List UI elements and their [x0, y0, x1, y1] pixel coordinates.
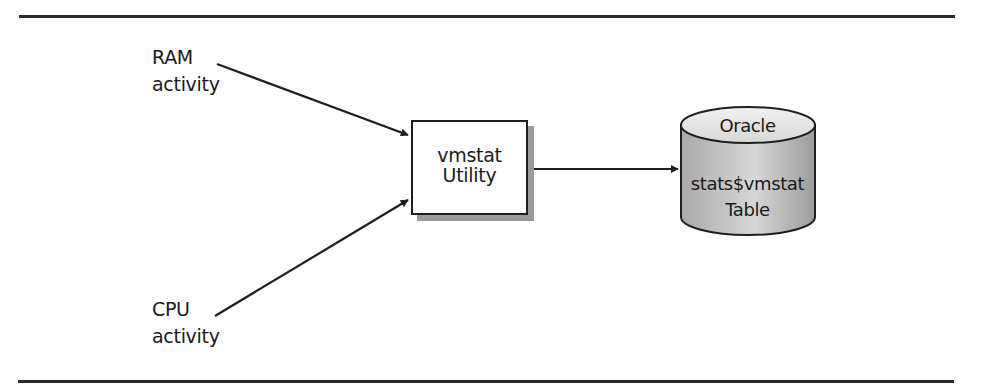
ram-label-line-1: RAM: [152, 44, 220, 71]
arrow-ram-to-vmstat: [217, 64, 408, 135]
ram-label-line-2: activity: [152, 71, 220, 98]
arrow-cpu-to-vmstat: [215, 200, 408, 316]
arrow-line: [215, 200, 408, 316]
cylinder-label-line-2: Table: [680, 197, 815, 223]
cpu-label-line-2: activity: [152, 323, 220, 350]
oracle-cylinder-label: stats$vmstat Table: [680, 171, 815, 223]
bottom-rule: [18, 380, 954, 383]
cpu-activity-label: CPU activity: [152, 296, 220, 350]
cpu-label-line-1: CPU: [152, 296, 220, 323]
arrow-line: [217, 64, 408, 135]
vmstat-box-line-2: Utility: [443, 162, 497, 188]
ram-activity-label: RAM activity: [152, 44, 220, 98]
vmstat-utility-box: vmstat Utility: [411, 120, 528, 215]
oracle-cylinder-title: Oracle: [680, 113, 815, 139]
cylinder-label-line-1: stats$vmstat: [680, 171, 815, 197]
